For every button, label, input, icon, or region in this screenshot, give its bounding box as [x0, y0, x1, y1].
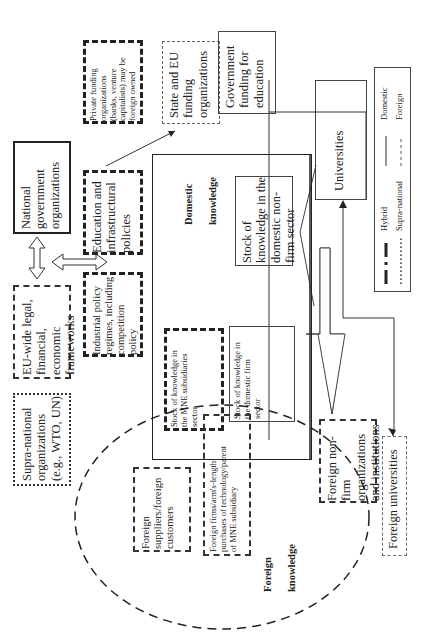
- national-government-text: National government organizations: [19, 162, 62, 229]
- legend-supranational-label: Supra-national: [395, 181, 405, 231]
- stock-mne-text: Stock of knowledge in the MNE subsidiari…: [170, 350, 199, 427]
- foreign-universities-box: Foreign universities: [382, 436, 407, 556]
- stock-nonfirm-box: Stock of knowledge in the domestic non- …: [235, 176, 293, 266]
- education-policies-box: Education and infrastructural policies: [83, 170, 143, 255]
- gov-funding-education-box: Government funding for education: [218, 31, 276, 114]
- eu-frameworks-box: EU-wide legal, financial, economic frame…: [13, 285, 71, 379]
- gov-funding-education-text: Government funding for education: [223, 46, 266, 108]
- universities-text: Universities: [332, 131, 346, 191]
- stock-domestic-firm-box: Stock of knowledge in the domestic firm …: [229, 326, 295, 422]
- private-funding-box: Private funding organizations (banks, ve…: [83, 40, 143, 124]
- legend-box: Hybrid Domestic Supra-national Foreign: [374, 67, 411, 292]
- industrial-policy-box: Industrial policy regimes, including com…: [83, 272, 143, 357]
- legend-foreign-label: Foreign: [395, 94, 405, 120]
- supra-national-text: Supra-national organizations (e.g., WTO,…: [20, 396, 63, 481]
- stock-domestic-firm-text: Stock of knowledge in the domestic firm …: [233, 342, 262, 419]
- eu-frameworks-text: EU-wide legal, financial, economic frame…: [20, 299, 78, 375]
- legend-hybrid-label: Hybrid: [380, 207, 390, 231]
- foreign-nonfirm-box: Foreign non- firm organizations and inst…: [319, 419, 377, 503]
- state-eu-funding-box: State and EU funding organizations: [162, 41, 220, 124]
- foreign-firms-text: Foreign firms/arm's-length purchases of …: [209, 446, 238, 552]
- foreign-suppliers-box: Foreign suppliers/foreign customers: [133, 467, 191, 552]
- industrial-policy-text: Industrial policy regimes, including com…: [91, 277, 139, 355]
- foreign-suppliers-text: Foreign suppliers/foreign customers: [140, 478, 176, 549]
- supra-national-box: Supra-national organizations (e.g., WTO,…: [13, 393, 71, 486]
- state-eu-funding-text: State and EU funding organizations: [167, 51, 210, 118]
- foreign-firms-box: Foreign firms/arm's-length purchases of …: [203, 414, 251, 556]
- legend-domestic-label: Domestic: [380, 87, 390, 120]
- double-arrow-frameworks-policies: [52, 254, 107, 270]
- foreign-nonfirm-text: Foreign non- firm organizations and inst…: [325, 424, 383, 501]
- domestic-knowledge-label: Domestic knowledge: [183, 177, 219, 225]
- stock-nonfirm-text: Stock of knowledge in the domestic non- …: [240, 177, 298, 263]
- foreign-universities-text: Foreign universities: [386, 449, 400, 549]
- education-policies-text: Education and infrastructural policies: [90, 181, 133, 253]
- national-government-box: National government organizations: [13, 141, 71, 234]
- double-arrow-national-eu: [29, 237, 45, 279]
- private-funding-text: Private funding organizations (banks, ve…: [89, 57, 138, 121]
- foreign-knowledge-label: Foreign knowledge: [262, 544, 298, 592]
- universities-box: Universities: [315, 80, 367, 200]
